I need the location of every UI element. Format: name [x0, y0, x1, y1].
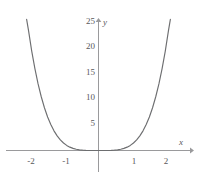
y-tick-label-5: 5 — [75, 119, 95, 128]
x-tick-label-minus-1: -1 — [58, 157, 74, 166]
y-axis-label: y — [103, 18, 107, 27]
y-tick-label-25: 25 — [75, 17, 95, 26]
x-tick-label-2: 2 — [158, 157, 174, 166]
x-tick-label-1: 1 — [126, 157, 142, 166]
x-tick-label-minus-2: -2 — [23, 157, 39, 166]
y-tick-label-15: 15 — [75, 68, 95, 77]
x-axis-arrow-icon — [190, 148, 194, 154]
y-tick-label-20: 20 — [75, 42, 95, 51]
y-axis-arrow-icon — [96, 18, 102, 22]
function-graph-figure: 25 20 15 10 5 -2 -1 1 2 x y — [0, 0, 197, 177]
plot-canvas — [0, 0, 197, 177]
x-axis-label: x — [179, 138, 183, 147]
y-tick-label-10: 10 — [75, 93, 95, 102]
